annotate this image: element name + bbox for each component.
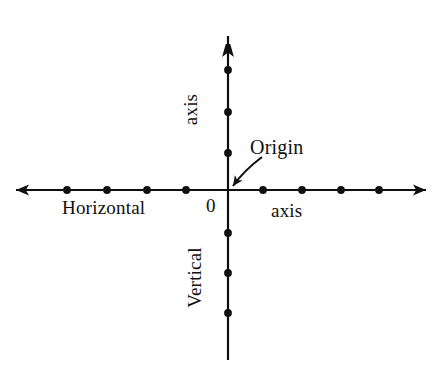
origin-label: Origin	[250, 137, 303, 157]
coordinate-axes-figure: Horizontal axis Origin 0 axis Vertical	[0, 0, 438, 370]
axis-dot	[63, 186, 71, 194]
axis-dot	[259, 186, 267, 194]
vertical-axis-word-label: axis	[181, 94, 200, 125]
axis-dot	[337, 186, 345, 194]
axis-dot	[224, 269, 232, 277]
zero-label: 0	[206, 196, 216, 215]
axis-dot	[103, 186, 111, 194]
axis-dot	[224, 108, 232, 116]
axis-dot	[182, 186, 190, 194]
axis-dot	[375, 186, 383, 194]
axis-dot	[224, 229, 232, 237]
axis-dot	[224, 66, 232, 74]
vertical-label: Vertical	[185, 247, 204, 308]
horizontal-axis-word-label: axis	[271, 201, 302, 220]
axes-drawing	[0, 0, 438, 370]
horizontal-label: Horizontal	[62, 198, 145, 217]
origin-pointer-arrow	[233, 157, 262, 186]
axis-dot	[143, 186, 151, 194]
axis-dot	[298, 186, 306, 194]
axis-dot	[224, 149, 232, 157]
axis-dot	[224, 309, 232, 317]
